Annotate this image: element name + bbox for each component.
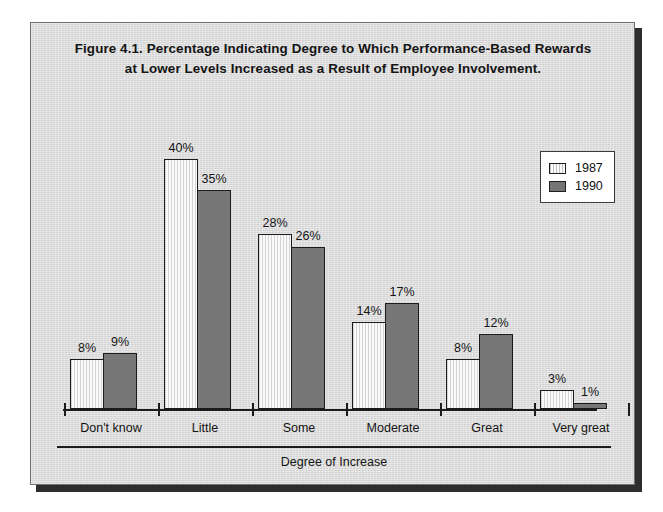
bar-value-label: 3% — [548, 372, 566, 386]
axis-tick — [158, 403, 160, 416]
bar-1987-very-great: 3% — [540, 390, 574, 409]
bar-group-bars: 8%12% — [446, 126, 528, 409]
x-axis-title: Degree of Increase — [57, 455, 611, 469]
bar-1990-some: 26% — [291, 247, 325, 410]
bar-1987-great: 8% — [446, 359, 480, 409]
bar-1990-very-great: 1% — [573, 403, 607, 409]
bar-1990-little: 35% — [197, 190, 231, 409]
category-label-moderate: Moderate — [346, 421, 440, 435]
axis-tick — [440, 403, 442, 416]
axis-tick — [346, 403, 348, 416]
bar-1990-great: 12% — [479, 334, 513, 409]
bar-group-bars: 14%17% — [352, 126, 434, 409]
bar-1990-don-t-know: 9% — [103, 353, 137, 409]
bar-value-label: 12% — [483, 316, 508, 330]
bar-group-bars: 40%35% — [164, 126, 246, 409]
bar-value-label: 8% — [78, 341, 96, 355]
bar-value-label: 14% — [356, 304, 381, 318]
axis-tick — [252, 403, 254, 416]
bar-value-label: 17% — [389, 285, 414, 299]
category-label-very-great: Very great — [534, 421, 628, 435]
figure-panel: Figure 4.1. Percentage Indicating Degree… — [30, 22, 635, 485]
bar-value-label: 40% — [168, 141, 193, 155]
axis-bottom-rule — [57, 446, 611, 448]
bar-group-bars: 28%26% — [258, 126, 340, 409]
bar-value-label: 26% — [295, 229, 320, 243]
bar-value-label: 9% — [111, 335, 129, 349]
bar-group-bars: 8%9% — [70, 126, 152, 409]
category-label-little: Little — [158, 421, 252, 435]
plot-area: 8%9%40%35%28%26%14%17%8%12%3%1% Don't kn… — [31, 23, 635, 485]
axis-tick — [64, 403, 66, 416]
bar-value-label: 35% — [201, 172, 226, 186]
category-label-great: Great — [440, 421, 534, 435]
bar-value-label: 8% — [454, 341, 472, 355]
axis-tick — [628, 403, 630, 416]
axis-tick — [534, 403, 536, 416]
bar-1987-little: 40% — [164, 159, 198, 409]
bar-1987-moderate: 14% — [352, 322, 386, 410]
bar-1987-don-t-know: 8% — [70, 359, 104, 409]
bar-value-label: 28% — [262, 216, 287, 230]
category-label-some: Some — [252, 421, 346, 435]
bar-value-label: 1% — [581, 385, 599, 399]
figure-root: Figure 4.1. Percentage Indicating Degree… — [0, 0, 663, 512]
bar-1987-some: 28% — [258, 234, 292, 409]
bar-group-bars: 3%1% — [540, 126, 622, 409]
category-label-don-t-know: Don't know — [64, 421, 158, 435]
bar-1990-moderate: 17% — [385, 303, 419, 409]
